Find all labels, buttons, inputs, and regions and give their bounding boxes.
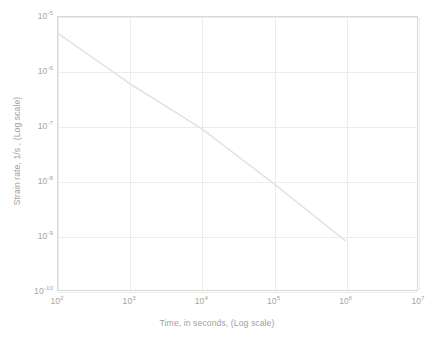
x-axis-title: Time, in seconds, (Log scale) [0, 318, 434, 328]
chart-figure: 102103104105106107 10-510-610-710-810-91… [0, 0, 434, 343]
x-tick-label: 107 [411, 296, 424, 306]
x-tick-label: 103 [123, 296, 136, 306]
y-tick-label: 10-9 [38, 231, 53, 241]
y-tick-label: 10-5 [38, 11, 53, 21]
x-tick-label: 102 [50, 296, 63, 306]
y-tick-label: 10-8 [38, 176, 53, 186]
y-axis-title: Strain rate, 1/s , (Log scale) [12, 71, 22, 231]
gridline-horizontal [58, 292, 417, 293]
y-tick-label: 10-6 [38, 66, 53, 76]
data-series-line [58, 33, 345, 240]
gridline-vertical [419, 17, 420, 290]
y-tick-label: 10-10 [34, 286, 53, 296]
plot-area [57, 16, 418, 291]
x-tick-label: 106 [339, 296, 352, 306]
x-tick-label: 105 [267, 296, 280, 306]
y-tick-label: 10-7 [38, 121, 53, 131]
data-line-layer [58, 17, 417, 290]
x-tick-label: 104 [195, 296, 208, 306]
